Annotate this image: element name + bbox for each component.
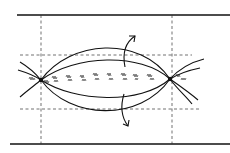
left-astral-rays [18, 62, 41, 97]
chromosome-glyph-marks [29, 73, 186, 83]
left-node [39, 78, 43, 82]
right-node [168, 77, 172, 81]
right-astral-rays [170, 59, 204, 104]
spindle-diagram [0, 0, 230, 153]
downward-arrow-icon [122, 94, 129, 126]
